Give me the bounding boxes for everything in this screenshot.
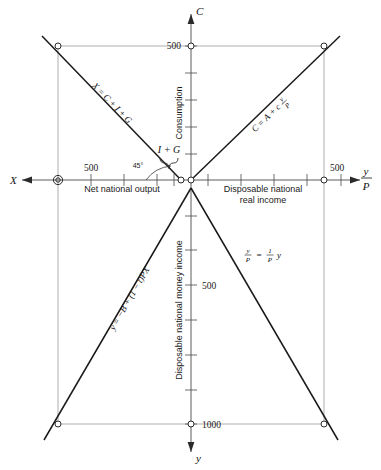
svg-text:y: y — [363, 165, 369, 177]
frac-right: 1 P — [267, 247, 274, 264]
upper-right-line — [191, 36, 340, 180]
axis-lines — [22, 14, 360, 452]
axis-label-net-national-output: Net national output — [84, 184, 160, 194]
svg-text:=: = — [256, 250, 262, 260]
tick-label-c-500: 500 — [167, 41, 182, 51]
brace-label-i-plus-g: I + G — [157, 144, 180, 155]
angle-arc — [146, 166, 171, 180]
svg-text:P: P — [267, 256, 273, 264]
tick-label-x-500: 500 — [84, 163, 99, 173]
arrow-right — [350, 177, 360, 184]
node-upper-left — [55, 43, 61, 49]
arrow-left — [22, 177, 32, 184]
curve-label-deflation-identity: y P = 1 P y — [245, 247, 282, 264]
svg-text:1: 1 — [268, 247, 272, 255]
curve-label-x-equals-c-i-g: X = C + I + G — [90, 80, 135, 126]
axis-label-real-income-line2: real income — [240, 195, 287, 205]
node-lower-left — [55, 421, 61, 427]
svg-text:P: P — [362, 180, 370, 192]
svg-text:y: y — [245, 247, 250, 255]
axis-name-x: X — [9, 174, 18, 186]
node-consumption-500 — [188, 43, 194, 49]
svg-text:P: P — [283, 101, 293, 111]
arrow-up — [188, 14, 195, 24]
node-output-intercept — [178, 177, 184, 183]
curve-label-money-income-function: y = −B + (1 − t)PX — [107, 265, 152, 333]
node-origin — [188, 177, 194, 183]
node-income-1000 — [188, 421, 194, 427]
axis-name-c: C — [196, 5, 204, 17]
arrow-down — [188, 442, 195, 452]
curve-label-consumption-function: C = A + c y P — [248, 94, 293, 138]
axis-name-y: y — [195, 452, 201, 464]
svg-text:P: P — [245, 256, 251, 264]
figure-canvas: C y X y P 500 500 500 500 1000 45° I + G… — [0, 0, 381, 470]
svg-text:y: y — [276, 250, 281, 260]
axis-name-y-over-p: y P — [361, 165, 372, 192]
diagram-svg: C y X y P 500 500 500 500 1000 45° I + G… — [0, 0, 381, 470]
node-upper-right — [321, 43, 327, 49]
brace-i-plus-g — [160, 158, 178, 169]
node-real-income-500 — [321, 177, 327, 183]
node-lower-right — [321, 421, 327, 427]
axis-label-consumption: Consumption — [174, 86, 184, 139]
tick-label-yp-500: 500 — [330, 163, 345, 173]
frac-left: y P — [245, 247, 252, 264]
angle-label: 45° — [133, 162, 144, 169]
axis-label-money-income: Disposable national money income — [174, 240, 184, 380]
tick-label-y-1000: 1000 — [202, 420, 221, 430]
lower-right-line — [191, 188, 338, 440]
axis-label-real-income-line1: Disposable national — [224, 184, 303, 194]
tick-label-y-500: 500 — [202, 281, 217, 291]
